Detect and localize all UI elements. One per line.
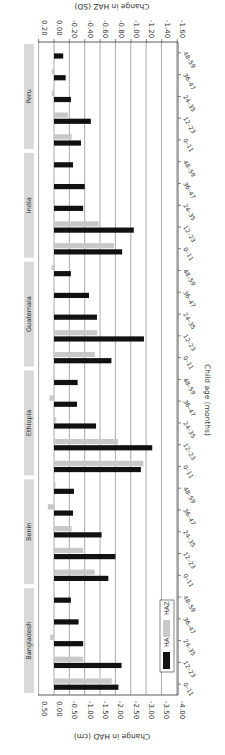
haz-bar xyxy=(54,439,118,444)
had-bar xyxy=(54,598,71,603)
had-tick-label: 0.00 xyxy=(55,701,63,717)
had-bar xyxy=(54,184,85,189)
had-bar xyxy=(54,358,111,363)
age-tick-label: 12–23 xyxy=(182,115,197,134)
had-axis-title: Change in HAD (cm) xyxy=(74,732,151,741)
age-tick-label: 24–35 xyxy=(182,202,197,221)
age-tick-label: 36–47 xyxy=(182,616,197,635)
haz-bar xyxy=(54,352,95,357)
haz-tick-label: -0.40 xyxy=(86,20,94,38)
had-bar xyxy=(54,140,81,145)
age-tick-label: 12–23 xyxy=(182,333,197,352)
had-bar xyxy=(54,467,141,472)
had-bar xyxy=(54,119,91,124)
country-label: Benin xyxy=(25,522,33,541)
age-tick-label: 12–23 xyxy=(182,224,197,243)
haz-bar xyxy=(54,548,83,553)
had-bar xyxy=(54,75,66,80)
had-tick-label: -2.00 xyxy=(116,701,124,719)
chart-svg: 0.500.00-0.50-1.00-1.50-2.00-2.50-3.00-3… xyxy=(0,0,225,755)
had-bar xyxy=(54,685,118,690)
had-bar xyxy=(54,663,122,668)
age-tick-label: 24–35 xyxy=(182,93,197,112)
country-label: Ethiopia xyxy=(25,410,33,436)
haz-bar xyxy=(54,221,99,226)
age-tick-label: 0–11 xyxy=(182,463,195,479)
haz-tick-label: -0.80 xyxy=(117,20,125,38)
age-tick-label: 48–59 xyxy=(182,268,197,287)
had-bar xyxy=(54,489,74,494)
age-tick-label: 48–59 xyxy=(182,376,197,395)
haz-tick-label: -0.20 xyxy=(70,20,78,38)
haz-tick-label: -0.60 xyxy=(101,20,109,38)
had-bar xyxy=(54,271,71,276)
age-tick-label: 0–11 xyxy=(182,137,195,153)
age-tick-label: 36–47 xyxy=(182,507,197,526)
age-tick-label: 12–23 xyxy=(182,442,197,461)
age-tick-label: 12–23 xyxy=(182,551,197,570)
haz-bar xyxy=(49,395,54,400)
had-bar xyxy=(54,510,73,515)
haz-bar xyxy=(54,243,114,248)
age-tick-label: 48–59 xyxy=(182,50,197,69)
haz-bar xyxy=(52,69,54,74)
age-tick-label: 48–59 xyxy=(182,159,197,178)
haz-bar xyxy=(52,91,54,96)
had-bar xyxy=(54,532,102,537)
age-tick-label: 24–35 xyxy=(182,420,197,439)
country-label: Bangladesh xyxy=(25,622,33,660)
country-label: Guatemala xyxy=(25,296,33,332)
haz-tick-label: 0.20 xyxy=(40,20,48,36)
age-tick-label: 0–11 xyxy=(182,681,195,697)
had-bar xyxy=(54,619,79,624)
x-axis-title: Child age (months) xyxy=(203,364,212,436)
haz-bar xyxy=(54,657,83,662)
haz-bar xyxy=(54,287,55,292)
had-tick-label: -4.00 xyxy=(178,701,186,719)
haz-tick-label: -1.40 xyxy=(163,20,171,38)
haz-bar xyxy=(54,374,55,379)
haz-bar xyxy=(54,417,56,422)
haz-bar xyxy=(54,483,56,488)
haz-bar xyxy=(52,265,54,270)
age-tick-label: 0–11 xyxy=(182,355,195,371)
had-bar xyxy=(54,423,96,428)
age-tick-label: 36–47 xyxy=(182,289,197,308)
haz-bar xyxy=(54,461,143,466)
haz-bar xyxy=(54,678,112,683)
haz-bar xyxy=(54,200,55,205)
had-tick-label: -3.50 xyxy=(162,701,170,719)
legend-swatch-haz xyxy=(163,620,170,637)
haz-bar xyxy=(54,112,68,117)
age-tick-label: 24–35 xyxy=(182,311,197,330)
haz-tick-label: -1.00 xyxy=(132,20,140,38)
haz-bar xyxy=(54,47,55,52)
age-tick-label: 24–35 xyxy=(182,638,197,657)
had-tick-label: -1.00 xyxy=(86,701,94,719)
age-tick-label: 24–35 xyxy=(182,529,197,548)
had-bar xyxy=(54,293,89,298)
had-tick-label: -0.50 xyxy=(70,701,78,719)
had-haz-chart: 0.500.00-0.50-1.00-1.50-2.00-2.50-3.00-3… xyxy=(0,0,225,755)
haz-bar xyxy=(54,156,55,161)
had-tick-label: -1.50 xyxy=(101,701,109,719)
had-bar xyxy=(54,336,144,341)
haz-axis-title: Change in HAZ (SD) xyxy=(74,2,149,11)
had-tick-label: 0.50 xyxy=(40,701,48,717)
had-bar xyxy=(54,315,97,320)
age-tick-label: 48–59 xyxy=(182,485,197,504)
haz-bar xyxy=(54,526,72,531)
had-bar xyxy=(54,97,71,102)
had-bar xyxy=(54,206,83,211)
had-bar xyxy=(54,380,78,385)
had-bar xyxy=(54,402,77,407)
had-bar xyxy=(54,576,108,581)
haz-tick-label: -1.20 xyxy=(147,20,155,38)
age-tick-label: 0–11 xyxy=(182,572,195,588)
age-tick-label: 48–59 xyxy=(182,594,197,613)
age-tick-label: 36–47 xyxy=(182,72,197,91)
haz-bar xyxy=(54,591,55,596)
haz-bar xyxy=(54,308,55,313)
had-bar xyxy=(54,554,115,559)
had-bar xyxy=(54,249,122,254)
